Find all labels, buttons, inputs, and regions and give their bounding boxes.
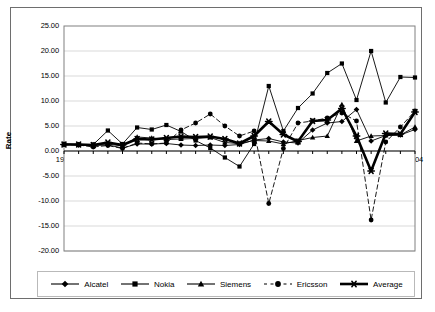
legend-item-ericsson[interactable]: Ericsson [262,278,328,290]
triangle-marker-icon [185,278,217,290]
legend-label: Siemens [220,280,251,289]
star-marker-icon [338,278,370,290]
legend-label: Average [373,280,403,289]
diamond-marker-icon [49,278,81,290]
circle-marker-icon [262,278,294,290]
legend-label: Alcatel [84,280,108,289]
chart-plot-svg [11,8,423,300]
legend-item-siemens[interactable]: Siemens [185,278,251,290]
legend-label: Ericsson [297,280,328,289]
legend-item-nokia[interactable]: Nokia [119,278,174,290]
legend-item-alcatel[interactable]: Alcatel [49,278,108,290]
chart-legend: AlcatelNokiaSiemensEricssonAverage [37,271,415,297]
legend-label: Nokia [154,280,174,289]
square-marker-icon [119,278,151,290]
legend-item-average[interactable]: Average [338,278,403,290]
chart-frame: Rate 25.0020.0015.0010.005.000.00-5.00-1… [10,7,422,299]
